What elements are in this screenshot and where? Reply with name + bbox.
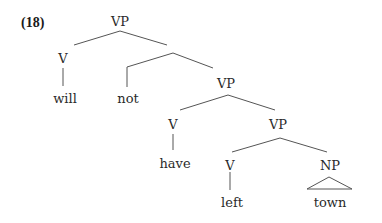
branch-vp1-v1	[74, 31, 120, 45]
leaf-not: not	[117, 92, 138, 105]
branch-bar-not	[127, 53, 173, 67]
branch-vp3-v3	[232, 138, 280, 152]
node-vp3: VP	[269, 118, 287, 131]
node-v3: V	[225, 159, 234, 172]
branch-vp2-v2	[180, 95, 228, 110]
leaf-left: left	[221, 196, 243, 209]
branch-vp1-bar	[120, 31, 167, 45]
leaf-will: will	[53, 92, 77, 105]
leaf-have: have	[159, 157, 190, 170]
np-triangle	[307, 177, 352, 189]
node-vp2: VP	[217, 77, 235, 90]
node-np: NP	[320, 159, 340, 172]
node-v2: V	[168, 118, 177, 131]
branch-vp3-np	[280, 138, 327, 152]
syntax-tree: (18) VP V will not VP V have VP V left N…	[0, 0, 382, 223]
node-v1: V	[58, 52, 67, 65]
tree-branches	[0, 0, 382, 223]
leaf-town: town	[314, 196, 347, 209]
node-vp1: VP	[111, 15, 129, 28]
example-number: (18)	[21, 16, 44, 30]
branch-bar-vp2	[173, 53, 213, 68]
branch-vp2-vp3	[228, 95, 275, 110]
